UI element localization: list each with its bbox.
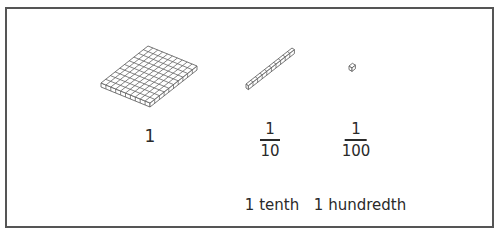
flat-value-label: 1 — [145, 126, 156, 146]
unit-fraction: 1 100 — [342, 121, 371, 159]
rod-fraction-numerator: 1 — [265, 121, 275, 137]
unit-fraction-bar — [345, 139, 367, 141]
rod-fraction: 1 10 — [260, 121, 280, 159]
unit-word-label: 1 hundredth — [314, 196, 406, 214]
rod-fraction-denominator: 10 — [260, 143, 279, 159]
unit-fraction-numerator: 1 — [351, 121, 361, 137]
rod-fraction-bar — [260, 139, 280, 141]
rod-word-label: 1 tenth — [245, 196, 299, 214]
unit-fraction-denominator: 100 — [342, 143, 371, 159]
